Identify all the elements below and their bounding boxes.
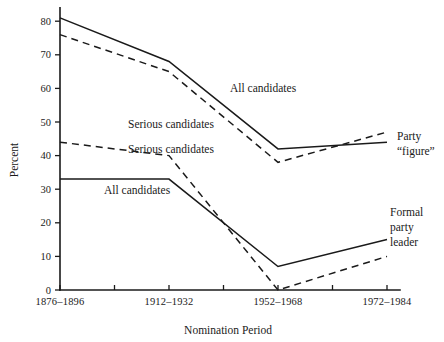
ann-formal-party-leader-line2: party <box>390 221 414 234</box>
line-chart: 01020304050607080 1876–18961912–19321952… <box>0 0 444 342</box>
y-axis-tick-label: 20 <box>41 217 52 228</box>
ann-formal-party-leader-line1: Formal <box>390 206 423 218</box>
ann-all-candidates-lower: All candidates <box>104 184 171 196</box>
y-axis-tick-labels: 01020304050607080 <box>41 16 52 296</box>
y-axis-title: Percent <box>8 142 20 177</box>
x-axis-tick-label: 1972–1984 <box>362 296 412 307</box>
series-line-1 <box>60 35 387 163</box>
x-axis-tick-label: 1876–1896 <box>35 296 84 307</box>
ann-serious-candidates-upper: Serious candidates <box>128 118 214 130</box>
ann-serious-candidates-lower: Serious candidates <box>128 143 214 155</box>
y-axis-tick-label: 70 <box>41 49 52 60</box>
y-axis-tick-label: 10 <box>41 251 52 262</box>
y-axis-tick-label: 50 <box>41 117 52 128</box>
x-axis-tick-labels: 1876–18961912–19321952–19681972–1984 <box>35 296 412 307</box>
ann-all-candidates-upper: All candidates <box>230 82 297 94</box>
chart-canvas: 01020304050607080 1876–18961912–19321952… <box>0 0 444 342</box>
y-axis-tick-label: 30 <box>41 184 52 195</box>
y-axis-tick-label: 0 <box>46 285 51 296</box>
series-annotations-group: All candidatesSerious candidatesSerious … <box>104 82 435 248</box>
y-axis-tick-label: 80 <box>41 16 52 27</box>
y-axis-tick-label: 60 <box>41 83 52 94</box>
x-axis-title: Nomination Period <box>184 324 272 336</box>
y-axis-tick-label: 40 <box>41 150 52 161</box>
ann-party-figure-line1: Party <box>397 130 422 143</box>
data-series-group <box>60 18 387 290</box>
x-axis-tick-label: 1952–1968 <box>253 296 302 307</box>
ann-party-figure-line2: “figure” <box>397 145 435 158</box>
ann-formal-party-leader-line3: leader <box>390 236 418 248</box>
x-axis-tick-label: 1912–1932 <box>144 296 193 307</box>
series-line-2 <box>60 142 387 290</box>
series-line-0 <box>60 18 387 149</box>
